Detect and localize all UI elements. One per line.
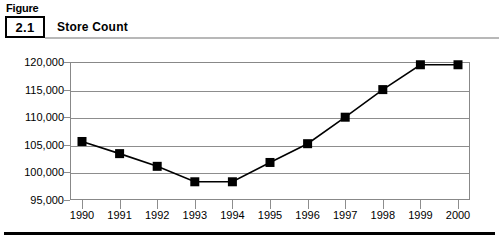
data-point-marker (115, 149, 124, 158)
data-point-marker (416, 60, 425, 69)
page-title: Store Count (57, 20, 128, 34)
data-point-marker (228, 177, 237, 186)
store-count-series (0, 47, 499, 245)
data-point-marker (153, 162, 162, 171)
header-divider (45, 37, 499, 39)
data-point-marker (341, 113, 350, 122)
data-point-marker (378, 85, 387, 94)
data-point-marker (266, 158, 275, 167)
chart-container: 120,000115,000110,000105,000100,00095,00… (0, 47, 499, 245)
data-point-marker (454, 60, 463, 69)
figure-label: Figure (6, 2, 38, 14)
figure-panel: Figure 2.1 Store Count 120,000115,000110… (0, 0, 499, 245)
data-point-marker (78, 137, 87, 146)
data-point-marker (303, 139, 312, 148)
bottom-rule (4, 232, 495, 235)
figure-header: Figure 2.1 Store Count (0, 0, 499, 47)
data-point-marker (190, 177, 199, 186)
figure-number-box: 2.1 (5, 16, 45, 38)
figure-number: 2.1 (16, 20, 35, 35)
series-markers (78, 60, 463, 186)
